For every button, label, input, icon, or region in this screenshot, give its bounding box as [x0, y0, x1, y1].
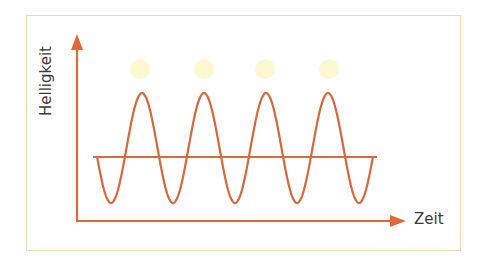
x-axis-label: Zeit: [414, 210, 444, 228]
light-dots: [130, 59, 339, 79]
light-dot-icon: [319, 59, 339, 79]
x-axis-arrow-icon: [390, 215, 406, 227]
brightness-wave: [97, 93, 373, 203]
light-dot-icon: [194, 59, 214, 79]
y-axis-arrow-icon: [71, 34, 83, 50]
light-dot-icon: [255, 59, 275, 79]
y-axis-label: Helligkeit: [37, 21, 59, 141]
light-dot-icon: [130, 59, 150, 79]
